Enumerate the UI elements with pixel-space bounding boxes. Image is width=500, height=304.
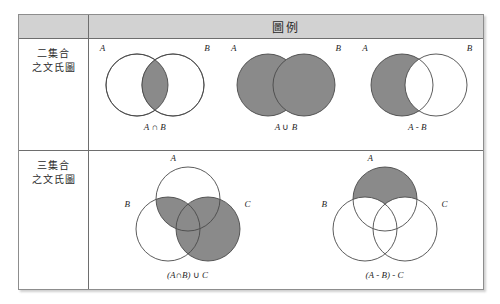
caption-operator: - xyxy=(414,122,422,132)
venn-caption: (A∩B) ∪ C xyxy=(123,270,253,280)
row-label-three-sets: 三集合 之文氏圖 xyxy=(19,151,89,289)
venn-caption: A ∪ B xyxy=(227,122,345,132)
header-cell-title: 圖例 xyxy=(89,15,483,38)
caption-operator: ∪ xyxy=(190,270,202,280)
caption-operator: ∪ xyxy=(280,122,292,132)
set-label-b: B xyxy=(335,43,341,53)
venn-graphic-intersection xyxy=(96,45,214,121)
row-content-two-sets: A B A ∩ B xyxy=(89,39,483,150)
set-label-c: C xyxy=(441,199,447,209)
venn-a-minus-b: A B xyxy=(358,39,476,132)
table-header-row: 圖例 xyxy=(19,15,483,39)
row-label-line-1: 二集合 xyxy=(19,47,88,61)
row-content-three-sets: A B C xyxy=(89,151,483,289)
venn-caption: A ∩ B xyxy=(96,122,214,132)
set-label-a: A xyxy=(231,43,237,53)
venn-caption: (A - B) - C xyxy=(320,270,450,280)
set-label-a: A xyxy=(171,153,177,163)
caption-right: C xyxy=(397,270,403,280)
caption-right: C xyxy=(202,270,208,280)
page-title: 圖例 xyxy=(272,18,300,35)
table-row-two-sets: 二集合 之文氏圖 A B xyxy=(19,39,483,151)
row-label-line-2: 之文氏圖 xyxy=(19,61,88,75)
row-label-line-2: 之文氏圖 xyxy=(19,173,88,187)
caption-left: (A - B) xyxy=(366,270,390,280)
venn-a-union-b: A B A ∪ B xyxy=(227,39,345,132)
figure-frame: 圖例 二集合 之文氏圖 A B xyxy=(18,14,484,290)
venn-graphic-difference xyxy=(358,45,476,121)
venn-caption: A - B xyxy=(358,122,476,132)
venn-diagram-legend-figure: 圖例 二集合 之文氏圖 A B xyxy=(0,0,500,304)
venn-a-minus-b-minus-c: A B C xyxy=(320,151,450,280)
caption-operator: ∩ xyxy=(149,122,160,132)
header-cell-blank xyxy=(19,15,89,38)
row-label-line-1: 三集合 xyxy=(19,159,88,173)
table-row-three-sets: 三集合 之文氏圖 A B C xyxy=(19,151,483,289)
caption-right: B xyxy=(160,122,166,132)
set-label-a: A xyxy=(368,153,374,163)
row-label-two-sets: 二集合 之文氏圖 xyxy=(19,39,89,150)
set-label-a: A xyxy=(100,43,106,53)
set-label-a: A xyxy=(362,43,368,53)
venn-graphic-a-minus-b-minus-c xyxy=(320,157,450,269)
venn-a-intersect-b-union-c: A B C xyxy=(123,151,253,280)
venn-graphic-ab-union-c xyxy=(123,157,253,269)
caption-left: (A∩B) xyxy=(167,270,191,280)
set-label-b: B xyxy=(125,199,131,209)
venn-graphic-union xyxy=(227,45,345,121)
set-label-c: C xyxy=(244,199,250,209)
caption-right: B xyxy=(292,122,298,132)
set-label-b: B xyxy=(322,199,328,209)
caption-right: B xyxy=(421,122,427,132)
venn-a-intersect-b: A B A ∩ B xyxy=(96,39,214,132)
set-label-b: B xyxy=(204,43,210,53)
set-label-b: B xyxy=(467,43,473,53)
